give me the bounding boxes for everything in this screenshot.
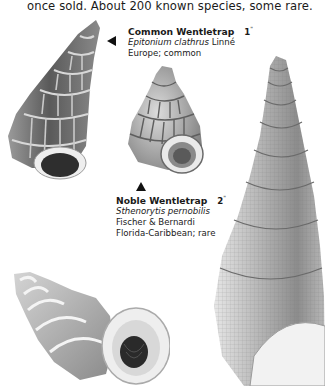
intro-text: once sold. About 200 known species, some…	[27, 0, 313, 13]
caption-noble-wentletrap: Noble Wentletrap2" Sthenorytis pernobili…	[116, 193, 226, 238]
size: 1"	[244, 27, 253, 37]
scientific-name: Epitonium clathrus	[128, 37, 209, 47]
caption-common-wentletrap: Common Wentletrap1" Epitonium clathrus L…	[128, 24, 253, 59]
author: Linné	[212, 37, 235, 47]
large-wentletrap-shell	[214, 56, 325, 386]
pointer-up-icon	[136, 182, 146, 191]
pointer-left-icon	[107, 36, 116, 46]
author: Fischer & Bernardi	[116, 217, 226, 228]
noble-wentletrap-shell	[122, 64, 208, 178]
scientific-name: Sthenorytis pernobilis	[116, 206, 226, 217]
range-status: Florida-Caribbean; rare	[116, 228, 226, 239]
bottom-wentletrap-shell	[10, 270, 170, 386]
common-wentletrap-shell	[2, 18, 102, 180]
common-name: Noble Wentletrap	[116, 195, 207, 206]
common-name: Common Wentletrap	[128, 26, 234, 37]
